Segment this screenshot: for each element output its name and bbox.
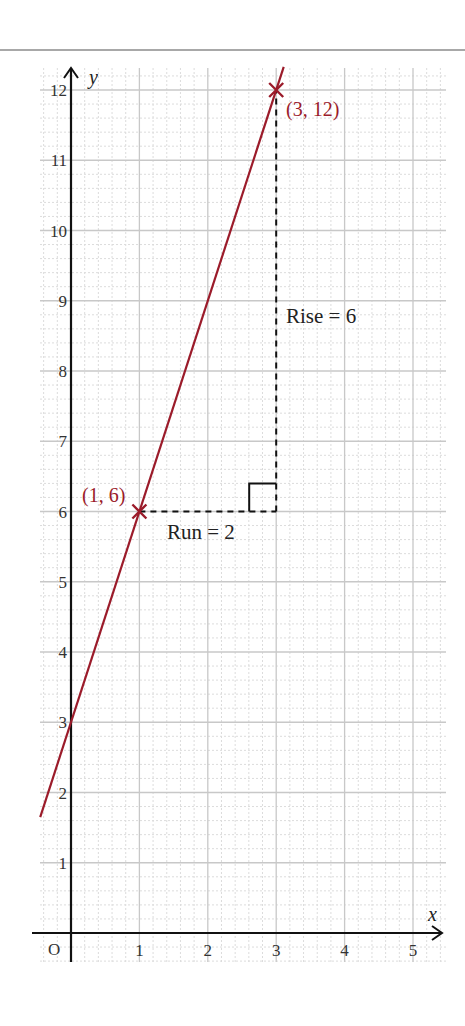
graph: 12345123456789101112 y x O (1, 6) (3, 12… <box>0 0 465 1026</box>
rise-label: Rise = 6 <box>286 304 356 328</box>
run-label: Run = 2 <box>167 520 235 544</box>
y-axis-label: y <box>87 66 98 89</box>
y-tick-label: 8 <box>59 362 68 381</box>
minor-grid <box>40 68 446 962</box>
point-label-3-12: (3, 12) <box>286 98 339 121</box>
y-tick-label: 2 <box>59 784 68 803</box>
point-label-1-6: (1, 6) <box>82 484 125 507</box>
x-tick-label: 3 <box>272 941 281 960</box>
x-tick-label: 5 <box>409 941 418 960</box>
y-tick-label: 12 <box>50 81 67 100</box>
line-y-3x-plus-3 <box>40 67 284 817</box>
origin-label: O <box>48 940 60 959</box>
y-tick-label: 1 <box>59 854 68 873</box>
line-series <box>40 67 284 817</box>
y-tick-label: 11 <box>51 151 67 170</box>
y-tick-label: 5 <box>59 573 68 592</box>
x-tick-label: 4 <box>340 941 349 960</box>
y-tick-label: 6 <box>59 503 68 522</box>
y-tick-label: 7 <box>59 432 68 451</box>
y-tick-label: 9 <box>59 292 68 311</box>
x-tick-label: 1 <box>135 941 144 960</box>
y-tick-label: 3 <box>59 713 68 732</box>
y-tick-label: 10 <box>50 222 67 241</box>
x-tick-label: 2 <box>204 941 213 960</box>
y-tick-label: 4 <box>59 643 68 662</box>
x-axis-label: x <box>427 903 437 925</box>
